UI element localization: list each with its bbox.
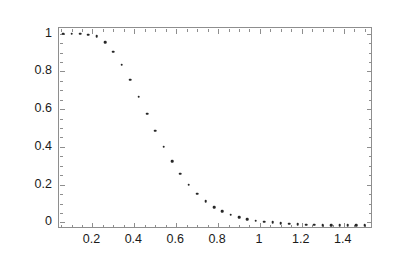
y-axis-tick (60, 175, 63, 176)
x-axis-tick-top (103, 29, 104, 32)
y-axis-tick-label: 0.4 (35, 139, 52, 153)
x-axis-tick-top (312, 29, 313, 32)
x-axis-tick-label: 1 (255, 232, 262, 246)
x-axis-tick-label: 0.4 (125, 232, 142, 246)
y-axis-tick (60, 185, 65, 186)
data-point (187, 183, 190, 186)
data-point (129, 79, 132, 82)
x-axis-tick-top (187, 29, 188, 32)
x-axis-tick (218, 223, 219, 228)
x-axis-tick (208, 225, 209, 228)
data-point (363, 224, 366, 227)
data-point (87, 33, 90, 36)
x-axis-tick-label: 0.6 (167, 232, 184, 246)
data-point (146, 113, 149, 116)
x-axis-tick-top (365, 29, 366, 32)
y-axis-tick (60, 43, 63, 44)
x-axis-tick (145, 225, 146, 228)
y-axis-tick (60, 109, 65, 110)
x-axis-tick (61, 225, 62, 228)
x-axis-tick (333, 225, 334, 228)
data-point (296, 223, 299, 226)
data-point (313, 224, 316, 227)
y-axis-tick (60, 71, 65, 72)
x-axis-tick-top (333, 29, 334, 32)
y-axis-tick (60, 53, 63, 54)
data-point (288, 223, 291, 226)
x-axis-tick (249, 225, 250, 228)
x-axis-tick-top (113, 29, 114, 32)
x-axis-tick (166, 225, 167, 228)
x-axis-tick-top (208, 29, 209, 32)
data-point (104, 41, 107, 44)
y-axis-tick-right (367, 34, 372, 35)
x-axis-tick (113, 225, 114, 228)
y-axis-tick-right (369, 119, 372, 120)
y-axis-tick-right (369, 137, 372, 138)
data-point (305, 223, 308, 226)
data-point (137, 96, 140, 99)
x-axis-tick-top (239, 29, 240, 32)
y-axis-tick-right (369, 175, 372, 176)
x-axis-tick (134, 223, 135, 228)
data-point (62, 32, 65, 35)
x-axis-tick (176, 223, 177, 228)
y-axis-tick (60, 204, 63, 205)
x-axis-tick-top (92, 29, 93, 34)
data-point (112, 50, 115, 53)
x-axis-tick (270, 225, 271, 228)
y-axis-tick-label: 0.2 (35, 177, 52, 191)
y-axis-tick-right (369, 194, 372, 195)
data-point (154, 130, 157, 133)
y-axis-tick-label: 0.8 (35, 63, 52, 77)
x-axis-tick (103, 225, 104, 228)
x-axis-tick-top (281, 29, 282, 32)
x-axis-tick-label: 1.4 (334, 232, 351, 246)
data-point (347, 224, 350, 227)
y-axis-tick (60, 194, 63, 195)
y-axis-tick-right (369, 156, 372, 157)
x-axis-tick-top (354, 29, 355, 32)
data-point (355, 224, 358, 227)
y-axis-tick-right (367, 222, 372, 223)
x-axis-tick-top (229, 29, 230, 32)
data-point (280, 222, 283, 225)
x-axis-tick-top (155, 29, 156, 32)
y-axis-tick (60, 147, 65, 148)
x-axis-tick (82, 225, 83, 228)
y-axis-tick-right (367, 185, 372, 186)
x-axis-tick (344, 223, 345, 228)
y-axis-tick-right (369, 90, 372, 91)
y-axis-tick-labels: 00.20.40.60.81 (0, 0, 52, 267)
y-axis-tick-right (369, 81, 372, 82)
x-axis-tick-top (134, 29, 135, 34)
data-point (162, 146, 165, 149)
x-axis-tick (187, 225, 188, 228)
y-axis-tick-right (369, 100, 372, 101)
y-axis-tick-right (369, 53, 372, 54)
x-axis-tick (155, 225, 156, 228)
x-axis-tick-top (323, 29, 324, 32)
data-point (238, 216, 241, 219)
x-axis-tick-top (249, 29, 250, 32)
data-point (321, 224, 324, 227)
x-axis-tick-top (260, 29, 261, 34)
data-point (338, 224, 341, 227)
x-axis-tick-top (82, 29, 83, 32)
x-axis-tick-top (302, 29, 303, 34)
x-axis-tick-top (145, 29, 146, 32)
x-axis-tick-top (197, 29, 198, 32)
y-axis-tick-right (369, 62, 372, 63)
x-axis-tick (197, 225, 198, 228)
data-point (204, 200, 207, 203)
y-axis-tick-right (369, 128, 372, 129)
x-axis-tick (281, 225, 282, 228)
y-axis-tick (60, 128, 63, 129)
y-axis-tick-right (369, 213, 372, 214)
data-point (229, 214, 232, 217)
data-point (171, 160, 174, 163)
x-axis-tick-label: 0.8 (208, 232, 225, 246)
y-axis-tick-label: 1 (45, 26, 52, 40)
data-point (254, 219, 257, 222)
y-axis-tick (60, 222, 65, 223)
